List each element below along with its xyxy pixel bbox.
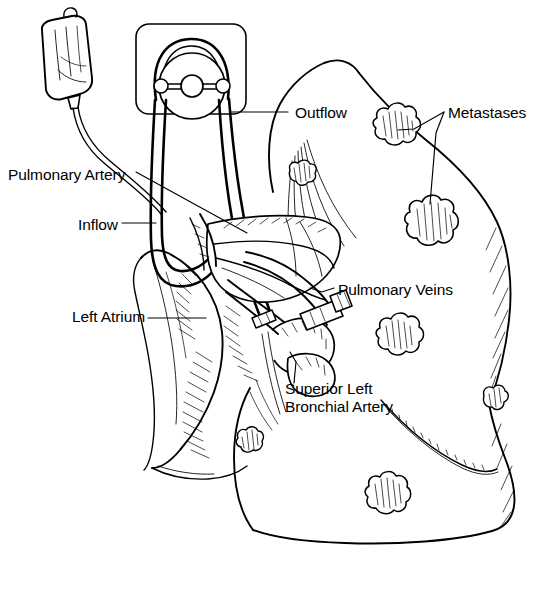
- label-line-1: Superior Left: [285, 380, 393, 398]
- nodule: [289, 160, 316, 185]
- pulmonary-hilum: [190, 214, 352, 396]
- nodule: [376, 313, 423, 355]
- label-outflow: Outflow: [295, 104, 347, 121]
- perfusate-bag: [42, 8, 92, 109]
- label-superior-left-bronchial-artery: Superior Left Bronchial Artery: [285, 380, 393, 415]
- metastatic-nodules: [236, 103, 508, 514]
- label-left-atrium: Left Atrium: [72, 308, 145, 325]
- oblique-fissure: [381, 400, 498, 474]
- label-pulmonary-veins: Pulmonary Veins: [338, 281, 453, 298]
- leader-metastases-lower: [430, 112, 444, 204]
- nodule: [483, 385, 508, 409]
- inflow-tubing: [151, 100, 216, 286]
- nodule: [236, 427, 263, 452]
- lung-perfusion-figure: .s{fill:none;stroke:#000;stroke-linecap:…: [0, 0, 533, 590]
- label-pulmonary-artery: Pulmonary Artery: [8, 166, 125, 183]
- label-line-2: Bronchial Artery: [285, 398, 393, 416]
- label-inflow: Inflow: [78, 216, 118, 233]
- nodule: [373, 103, 420, 145]
- illustration-canvas: .s{fill:none;stroke:#000;stroke-linecap:…: [0, 0, 533, 590]
- nodule: [365, 472, 411, 514]
- nodule: [405, 195, 458, 245]
- leader-pulmonary-veins: [310, 288, 334, 292]
- label-metastases: Metastases: [448, 104, 526, 121]
